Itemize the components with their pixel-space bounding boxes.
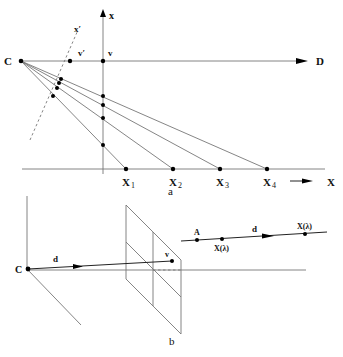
point-X-lambda-1 [220,237,224,241]
label-d-right: d [252,224,257,234]
image-plane-horizontal-divider [126,242,181,297]
direction-d-ray [28,261,172,269]
X-direction-arrow-icon [302,179,313,184]
label-x-prime: x′ [74,24,81,34]
label-C-b: C [15,264,22,275]
label-d-left: d [53,254,58,264]
point-A [195,238,199,242]
caption-b: b [169,335,175,347]
label-X1: X1 [122,176,135,190]
panel-a: C D x x′ v v′ X X1 X2 X3 X4 a [4,9,335,197]
line-CD-arrow-icon [296,58,308,64]
point-v [101,59,105,63]
point-xprime-4 [51,94,55,98]
point-X1 [124,167,128,171]
label-A: A [194,228,200,237]
label-v: v [108,48,113,58]
figure-canvas: C D x x′ v v′ X X1 X2 X3 X4 a [0,0,343,357]
label-X-lambda-2: X(λ) [297,222,312,231]
point-x-4 [101,94,105,98]
point-x-2 [101,116,105,120]
point-x-1 [101,143,105,147]
camera-diagonal-axis [27,269,81,325]
point-xprime-3 [55,86,59,90]
point-xprime-1 [59,77,63,81]
label-C-a: C [4,55,12,67]
point-X4 [265,167,269,171]
label-D: D [316,55,324,67]
direction-d-arrow-icon [73,264,83,269]
point-xprime-2 [57,81,61,85]
point-X3 [218,167,222,171]
label-X3: X3 [216,176,229,190]
label-v-prime: v′ [78,48,85,58]
label-v-b: v [165,250,169,259]
point-C [19,59,24,64]
ray-X3 [21,61,220,169]
point-X-lambda-2 [303,232,307,236]
point-X2 [171,167,175,171]
x-axis-arrow-icon [100,9,106,17]
label-X-axis: X [327,176,335,188]
point-C-b [26,267,31,272]
point-v-prime [68,59,72,63]
caption-a: a [168,185,173,197]
ray-X2 [21,61,173,169]
line-direction-d-arrow-icon [262,234,274,239]
point-v-b [170,259,174,263]
panel-b: C d v A X(λ) d X(λ) b [15,196,327,347]
x-prime-image-line [30,30,78,140]
point-x-3 [101,103,105,107]
ray-X1 [21,61,126,169]
label-X4: X4 [263,176,276,190]
label-x: x [109,10,114,21]
label-X-lambda-1: X(λ) [214,244,229,253]
ray-X4 [21,61,267,169]
